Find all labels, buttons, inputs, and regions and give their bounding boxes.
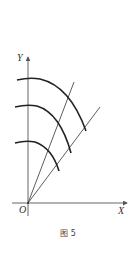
origin-point xyxy=(27,202,29,204)
origin-label: O xyxy=(19,205,26,215)
radial-line-shallow xyxy=(28,107,100,203)
y-axis-label: Y xyxy=(17,53,23,63)
diagram-canvas xyxy=(0,0,136,256)
figure-caption: 图 5 xyxy=(0,230,136,238)
x-axis-label: X xyxy=(118,206,124,216)
diagram-figure: Y O X 图 5 xyxy=(0,0,136,256)
arc-inner xyxy=(15,141,59,171)
